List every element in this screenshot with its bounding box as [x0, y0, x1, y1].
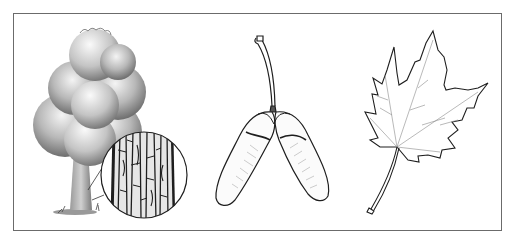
samara-drawing — [216, 36, 329, 205]
maple-leaf-drawing — [365, 31, 488, 214]
maple-illustration — [0, 0, 519, 242]
